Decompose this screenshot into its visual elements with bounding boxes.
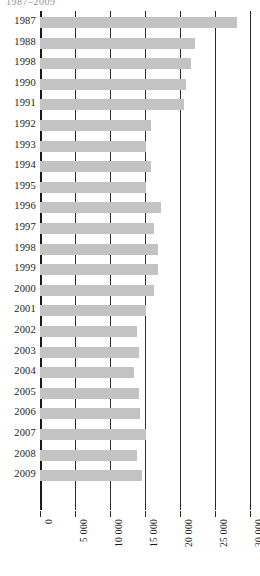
bar <box>40 326 137 337</box>
bar <box>40 223 154 234</box>
chart-row: 1993 <box>0 137 260 158</box>
bar <box>40 141 146 152</box>
chart-row: 1988 <box>0 34 260 55</box>
x-tick-mark <box>215 511 216 517</box>
chart-row: 2006 <box>0 404 260 425</box>
chart-row: 1994 <box>0 157 260 178</box>
x-tick-label: 5 000 <box>79 519 89 542</box>
bar <box>40 38 195 49</box>
category-label: 2000 <box>0 283 36 294</box>
category-label: 2003 <box>0 345 36 356</box>
category-label: 1990 <box>0 77 36 88</box>
chart-row: 2002 <box>0 322 260 343</box>
chart-row: 1991 <box>0 95 260 116</box>
plot-area: 1987198819981990199119921993199419951996… <box>0 11 260 511</box>
chart-row: 2001 <box>0 301 260 322</box>
bar <box>40 470 142 481</box>
bar <box>40 202 161 213</box>
bar <box>40 58 191 69</box>
category-label: 1994 <box>0 159 36 170</box>
chart-row: 1987 <box>0 13 260 34</box>
chart-row: 1992 <box>0 116 260 137</box>
bar-chart: 1987–2009 198719881998199019911992199319… <box>0 0 260 576</box>
chart-row: 1990 <box>0 75 260 96</box>
bar <box>40 120 151 131</box>
x-tick-label: 15 000 <box>149 519 159 547</box>
bar <box>40 408 140 419</box>
chart-row: 2005 <box>0 384 260 405</box>
x-tick-mark <box>250 511 251 517</box>
chart-row: 1998 <box>0 54 260 75</box>
category-label: 1987 <box>0 15 36 26</box>
category-label: 2001 <box>0 303 36 314</box>
x-tick-label: 25 000 <box>219 519 229 547</box>
category-label: 1998 <box>0 56 36 67</box>
category-label: 1991 <box>0 97 36 108</box>
x-tick-label: 30 000 <box>254 519 260 547</box>
bar <box>40 264 158 275</box>
bar <box>40 285 154 296</box>
category-label: 2002 <box>0 324 36 335</box>
x-tick-mark <box>75 511 76 517</box>
category-label: 1999 <box>0 262 36 273</box>
chart-row: 2008 <box>0 446 260 467</box>
x-tick-label: 20 000 <box>184 519 194 547</box>
category-label: 1988 <box>0 36 36 47</box>
category-label: 1993 <box>0 139 36 150</box>
bar <box>40 161 151 172</box>
category-label: 1992 <box>0 118 36 129</box>
chart-row: 2004 <box>0 363 260 384</box>
chart-row: 1999 <box>0 260 260 281</box>
category-label: 2006 <box>0 406 36 417</box>
bar <box>40 79 186 90</box>
category-label: 2008 <box>0 448 36 459</box>
chart-row: 2003 <box>0 343 260 364</box>
chart-row: 1998 <box>0 240 260 261</box>
bar <box>40 17 237 28</box>
category-label: 1996 <box>0 200 36 211</box>
x-tick-label: 10 000 <box>114 519 124 547</box>
chart-title-fragment: 1987–2009 <box>6 0 56 7</box>
bar <box>40 367 134 378</box>
bar <box>40 244 158 255</box>
chart-row: 2000 <box>0 281 260 302</box>
bar <box>40 450 137 461</box>
x-axis: 05 00010 00015 00020 00025 00030 000 <box>0 511 260 576</box>
chart-row: 1996 <box>0 198 260 219</box>
bar <box>40 182 146 193</box>
chart-row: 2009 <box>0 466 260 487</box>
x-tick-mark <box>40 511 41 517</box>
bar <box>40 388 139 399</box>
x-tick-mark <box>180 511 181 517</box>
chart-row: 1995 <box>0 178 260 199</box>
category-label: 2007 <box>0 427 36 438</box>
category-label: 2004 <box>0 365 36 376</box>
x-tick-label: 0 <box>44 519 54 524</box>
chart-row: 1997 <box>0 219 260 240</box>
chart-row: 2007 <box>0 425 260 446</box>
category-label: 1997 <box>0 221 36 232</box>
bar <box>40 305 146 316</box>
x-tick-mark <box>145 511 146 517</box>
bar <box>40 429 146 440</box>
category-label: 1995 <box>0 180 36 191</box>
category-label: 2009 <box>0 468 36 479</box>
bar <box>40 347 139 358</box>
x-tick-mark <box>110 511 111 517</box>
category-label: 2005 <box>0 386 36 397</box>
category-label: 1998 <box>0 242 36 253</box>
bar <box>40 99 184 110</box>
